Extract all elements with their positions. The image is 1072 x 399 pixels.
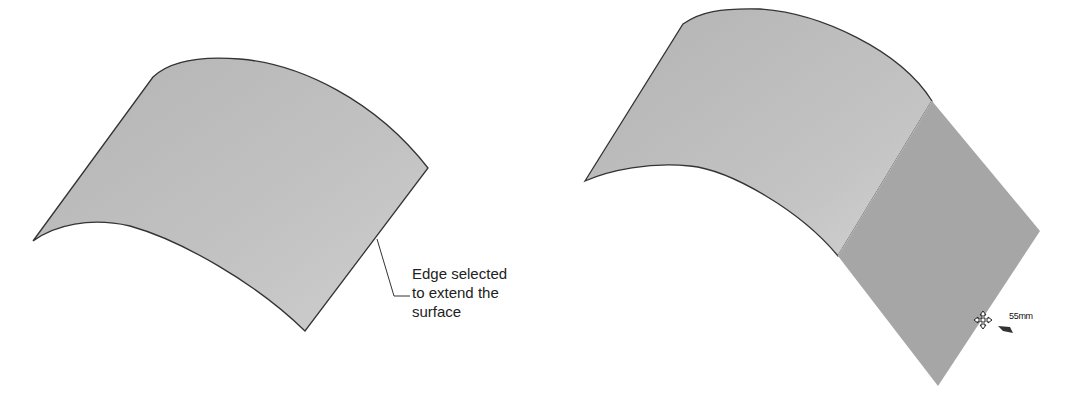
callout-line-2: to extend the (412, 283, 507, 302)
curved-surface (33, 58, 428, 331)
figure-canvas (0, 0, 1072, 399)
callout-line-1: Edge selected (412, 264, 507, 283)
dimension-arrow-icon (998, 326, 1013, 333)
right-surface (585, 9, 1040, 386)
dimension-label: 55mm (1009, 311, 1033, 321)
callout-leader-line (377, 239, 410, 296)
edge-selected-callout: Edge selected to extend the surface (412, 264, 507, 321)
callout-line-3: surface (412, 302, 507, 321)
left-surface (33, 58, 428, 331)
